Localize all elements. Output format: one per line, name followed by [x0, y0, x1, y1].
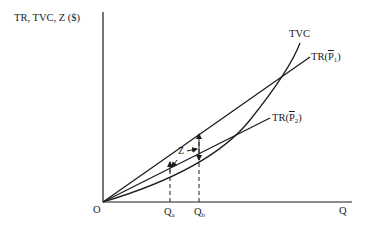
x-axis-label: Q	[339, 206, 347, 217]
z-label: Z	[178, 146, 184, 156]
qa-label: Qa	[164, 207, 175, 219]
tr-p1-label: TR(P1)	[311, 52, 341, 64]
qa-label-sub: a	[172, 211, 175, 219]
qa-label-main: Q	[164, 206, 172, 217]
origin-label: O	[93, 205, 101, 216]
tr-p1-line	[103, 57, 310, 202]
y-axis-label: TR, TVC, Z ($)	[14, 13, 80, 24]
diagram-canvas	[0, 0, 368, 225]
qb-label-main: Q	[194, 206, 202, 217]
tvc-label: TVC	[289, 29, 310, 40]
tr-p1-label-close: )	[337, 51, 341, 62]
tr-p2-line	[103, 118, 270, 202]
tvc-curve	[103, 43, 300, 202]
tr-p2-label-main: TR(	[272, 112, 289, 123]
z-pointer-arrow-right	[187, 149, 197, 151]
qb-label-sub: b	[202, 211, 206, 219]
tr-p1-label-main: TR(	[311, 51, 328, 62]
tr-p2-label-close: )	[298, 112, 302, 123]
qb-label: Qb	[194, 207, 205, 219]
economics-diagram: TR, TVC, Z ($) TVC TR(P1) TR(P2) Z O Qa …	[0, 0, 368, 225]
tr-p2-label: TR(P2)	[272, 113, 302, 125]
